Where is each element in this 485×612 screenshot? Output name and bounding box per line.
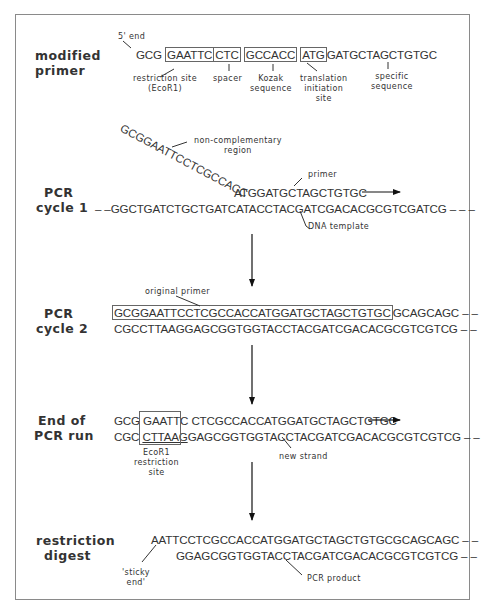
label-line: PCR xyxy=(36,185,88,200)
annotation-specific-sequence: specific sequence xyxy=(371,72,413,92)
ecor1-site-box xyxy=(139,411,181,445)
seq-ecor1-site: GAATTC xyxy=(165,47,214,62)
stage-label-modified-primer: modified primer xyxy=(35,48,101,78)
cycle2-bottom-strand: CGCCTTAAGGAGCGGTGGTACCTACGATCGACACGCGTCG… xyxy=(114,322,476,335)
annotation-new-strand: new strand xyxy=(279,452,328,462)
label-line: End of xyxy=(34,413,94,428)
seq-spacer: CTC xyxy=(214,47,240,62)
annotation-line: Kozak xyxy=(250,74,292,84)
top-sequence: AATTCCTCGCCACCATGGATGCTAGCTGTGCGCAGCAGC xyxy=(151,533,459,546)
annotation-sticky-end: 'sticky end' xyxy=(122,568,150,588)
annotation-line: end' xyxy=(122,578,150,588)
annotation-pcr-product: PCR product xyxy=(307,574,361,584)
annotation-line: initiation xyxy=(300,84,347,94)
stage-label-cycle1: PCR cycle 1 xyxy=(36,185,88,215)
stage-label-end-of-run: End of PCR run xyxy=(34,413,94,443)
annotation-line: restriction xyxy=(134,458,179,468)
annotation-line: non-complementary xyxy=(194,136,282,146)
bottom-prefix: CGC xyxy=(114,430,139,443)
annotation-non-complementary: non-complementary region xyxy=(194,136,282,156)
annotation-dna-template: DNA template xyxy=(308,222,369,232)
five-prime-end-label: 5' end xyxy=(118,32,145,42)
label-line: primer xyxy=(35,63,101,78)
seq-atg: ATG xyxy=(300,47,327,62)
template-prefix-dashes: – – xyxy=(95,202,111,215)
annotation-line: sequence xyxy=(371,82,413,92)
bottom-rest: GAGCGGTGGTACCTACGATCGACACGCGTCGTCG xyxy=(188,430,461,443)
annotation-line: restriction site xyxy=(133,74,197,84)
annotation-restriction-site: restriction site (EcoR1) xyxy=(133,74,197,94)
bottom-sequence: CGCCTTAAGGAGCGGTGGTACCTACGATCGACACGCGTCG… xyxy=(114,322,458,335)
annotation-kozak: Kozak sequence xyxy=(250,74,292,94)
suffix-dashes: – – xyxy=(462,306,478,319)
seq-specific: GATGCTAGCTGTGC xyxy=(327,48,437,61)
original-primer-box: GCGGAATTCCTCGCCACCATGGATGCTAGCTGTGC xyxy=(112,305,393,320)
annotation-spacer: spacer xyxy=(213,74,242,84)
annotation-line: sequence xyxy=(250,84,292,94)
top-rest: CTCGCCACCATGGATGCTAGCTGTGC xyxy=(191,414,396,427)
annotation-line: (EcoR1) xyxy=(133,84,197,94)
stage-label-digest: restriction digest xyxy=(36,533,115,563)
cycle2-top-strand: GCGGAATTCCTCGCCACCATGGATGCTAGCTGTGCGCAGC… xyxy=(112,306,478,319)
label-line: cycle 2 xyxy=(36,321,88,336)
annotation-line: site xyxy=(134,468,179,478)
cycle1-template-strand: – –GGCTGATCTGCTGATCATACCTACGATCGACACGCGT… xyxy=(95,202,475,215)
annotation-line: 'sticky xyxy=(122,568,150,578)
suffix-dashes: – – xyxy=(462,533,478,546)
annotation-ecor1-site: EcoR1 restriction site xyxy=(134,448,179,478)
label-line: modified xyxy=(35,48,101,63)
template-suffix-dashes: – – – xyxy=(450,202,475,215)
annotation-line: EcoR1 xyxy=(134,448,179,458)
label-line: PCR run xyxy=(34,428,94,443)
label-line: PCR xyxy=(36,306,88,321)
label-line: digest xyxy=(36,548,115,563)
suffix-dashes: – – xyxy=(461,322,477,335)
suffix-dashes: – – xyxy=(461,549,477,562)
top-prefix: GCG xyxy=(114,414,140,427)
seq-gcg: GCG xyxy=(136,48,162,61)
label-line: cycle 1 xyxy=(36,200,88,215)
annotation-line: specific xyxy=(371,72,413,82)
cycle1-primer-sequence: ATGGATGCTAGCTGTGC xyxy=(234,186,367,199)
modified-primer-sequence: GCG GAATTCCTC GCCACC ATGGATGCTAGCTGTGC xyxy=(136,48,437,61)
extension-sequence: GCAGCAGC xyxy=(393,306,459,319)
digest-bottom-strand: GGAGCGGTGGTACCTACGATCGACACGCGTCGTCG – – xyxy=(176,549,477,562)
annotation-primer: primer xyxy=(308,170,337,180)
annotation-translation-initiation: translation initiation site xyxy=(300,74,347,104)
annotation-line: site xyxy=(300,94,347,104)
digest-top-strand: AATTCCTCGCCACCATGGATGCTAGCTGTGCGCAGCAGC … xyxy=(151,533,478,546)
template-sequence: GGCTGATCTGCTGATCATACCTACGATCGACACGCGTCGA… xyxy=(111,202,447,215)
suffix-dashes: – – xyxy=(464,430,480,443)
annotation-line: translation xyxy=(300,74,347,84)
annotation-original-primer: original primer xyxy=(145,287,210,297)
bottom-sequence: GGAGCGGTGGTACCTACGATCGACACGCGTCGTCG xyxy=(176,549,458,562)
label-line: restriction xyxy=(36,533,115,548)
seq-kozak: GCCACC xyxy=(244,47,297,62)
stage-label-cycle2: PCR cycle 2 xyxy=(36,306,88,336)
annotation-line: region xyxy=(194,146,282,156)
